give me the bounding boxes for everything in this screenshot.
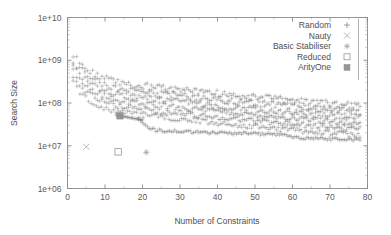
- y-tick-label: 1e+09: [38, 55, 62, 65]
- legend-marker-filled-square-icon: [344, 64, 350, 70]
- legend-label-nauty: Nauty: [309, 31, 332, 41]
- x-tick-label: 20: [138, 192, 148, 202]
- x-tick-label: 60: [288, 192, 298, 202]
- y-axis-title: Search Size: [9, 80, 19, 126]
- legend-label-basic-stabiliser: Basic Stabiliser: [273, 41, 331, 51]
- y-tick-label: 1e+08: [38, 98, 62, 108]
- x-tick-label: 50: [250, 192, 260, 202]
- x-tick-label: 40: [213, 192, 223, 202]
- legend-label-arityone: ArityOne: [298, 62, 331, 72]
- x-axis-title: Number of Constraints: [174, 216, 259, 226]
- y-tick-label: 1e+10: [38, 13, 62, 23]
- legend-marker-star-icon: [344, 43, 350, 49]
- y-tick-label: 1e+07: [38, 141, 62, 151]
- x-tick-label: 0: [65, 192, 70, 202]
- y-tick-label: 1e+06: [38, 184, 62, 194]
- x-tick-label: 80: [363, 192, 373, 202]
- x-tick-label: 70: [325, 192, 335, 202]
- legend-label-random: Random: [299, 20, 331, 30]
- legend-label-reduced: Reduced: [297, 52, 331, 62]
- x-tick-label: 30: [175, 192, 185, 202]
- scatter-plot: 01020304050607080 1e+061e+071e+081e+091e…: [0, 0, 391, 235]
- x-tick-label: 10: [100, 192, 110, 202]
- chart-container: 01020304050607080 1e+061e+071e+081e+091e…: [0, 0, 391, 235]
